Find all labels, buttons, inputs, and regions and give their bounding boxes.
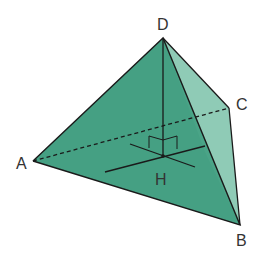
tetrahedron-diagram: D C A H B bbox=[0, 0, 258, 256]
label-b: B bbox=[236, 232, 247, 249]
label-c: C bbox=[236, 96, 248, 113]
label-h: H bbox=[155, 171, 167, 188]
label-d: D bbox=[157, 16, 169, 33]
point-h bbox=[161, 154, 165, 158]
label-a: A bbox=[16, 155, 27, 172]
